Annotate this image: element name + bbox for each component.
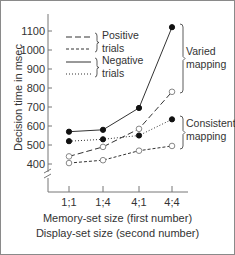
x-axis-title-line-2: Display-set size (second number)	[0, 227, 235, 239]
data-point-open	[136, 148, 142, 154]
x-axis-title-line-1: Memory-set size (first number)	[0, 212, 235, 224]
legend-label: trials	[102, 42, 124, 54]
x-tick-label: 4;1	[131, 196, 146, 208]
data-point-filled	[66, 139, 71, 144]
legend-brace	[95, 33, 99, 52]
series-line	[69, 92, 172, 157]
data-point-open	[169, 143, 175, 149]
y-tick-label: 700	[27, 101, 45, 113]
data-point-filled	[100, 127, 105, 132]
data-point-open	[66, 154, 72, 160]
data-point-filled	[169, 117, 174, 122]
bracket-label: mapping	[186, 58, 226, 70]
x-tick-label: 4;4	[164, 196, 179, 208]
x-tick-label: 1;1	[61, 196, 76, 208]
data-point-filled	[66, 129, 71, 134]
bracket-label: mapping	[186, 130, 226, 142]
y-tick-label: 800	[27, 82, 45, 94]
data-point-filled	[136, 105, 141, 110]
y-tick-label: 500	[27, 139, 45, 151]
legend-label: Positive	[102, 29, 139, 41]
data-point-open	[169, 89, 175, 95]
series-line	[69, 146, 172, 163]
x-tick-label: 1;4	[95, 196, 110, 208]
legend-label: trials	[102, 67, 124, 79]
y-tick-label: 900	[27, 63, 45, 75]
y-tick-label: 600	[27, 120, 45, 132]
y-axis-title: Decision time in msec	[12, 44, 24, 151]
bracket-label: Consistent	[186, 117, 235, 129]
data-point-open	[100, 144, 106, 150]
data-point-open	[66, 160, 72, 166]
axis-break-mark	[44, 174, 51, 178]
bracket-label: Varied	[186, 45, 216, 57]
y-tick-label: 1100	[21, 25, 45, 37]
y-tick-label: 1000	[21, 44, 45, 56]
varied-mapping-bracket	[180, 24, 185, 93]
legend-brace	[95, 58, 99, 77]
data-point-filled	[100, 137, 105, 142]
data-point-open	[100, 157, 106, 163]
data-point-filled	[136, 133, 141, 138]
y-tick-label: 400	[27, 158, 45, 170]
data-point-filled	[169, 25, 174, 30]
consistent-mapping-bracket	[180, 116, 185, 149]
legend-label: Negative	[102, 54, 144, 66]
data-point-open	[136, 126, 142, 132]
